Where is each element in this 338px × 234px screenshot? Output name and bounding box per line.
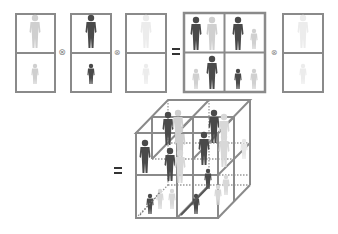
tensor-cube xyxy=(136,100,250,218)
tensor-operator-2: ⊗ xyxy=(114,48,121,57)
tensor-product-diagram: ⊗ ⊗ ⊗ xyxy=(0,0,338,234)
equals-sign-2 xyxy=(114,167,122,174)
tensor-operator-1: ⊗ xyxy=(58,47,66,57)
factor-2-box xyxy=(71,14,111,92)
factor-1-box xyxy=(16,14,55,92)
equals-sign-1 xyxy=(172,48,180,55)
factor-3-box xyxy=(126,14,166,92)
factor-5-box xyxy=(283,14,323,92)
tensor-operator-3: ⊗ xyxy=(271,48,278,57)
result-grid-box xyxy=(184,13,265,92)
